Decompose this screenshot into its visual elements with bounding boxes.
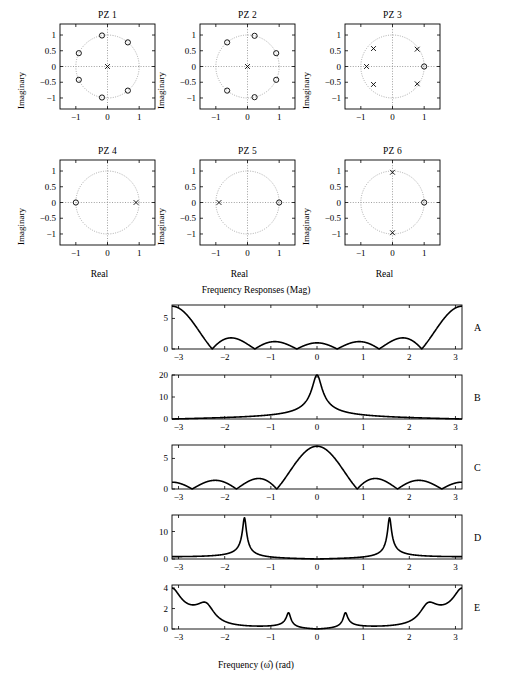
- svg-text:−0.5: −0.5: [40, 77, 57, 87]
- svg-text:1: 1: [361, 492, 366, 502]
- pole-zero-plot-6: PZ 6ImaginaryReal−101−1−0.500.51: [297, 146, 448, 271]
- svg-text:5: 5: [164, 313, 169, 323]
- svg-text:0: 0: [164, 414, 169, 424]
- pole-zero-plot-3: PZ 3Imaginary−101−1−0.500.51: [297, 10, 448, 135]
- svg-text:1: 1: [361, 422, 366, 432]
- svg-text:1: 1: [137, 248, 142, 258]
- svg-text:−3: −3: [174, 422, 184, 432]
- svg-text:2: 2: [164, 604, 169, 614]
- pole-marker: [217, 200, 222, 205]
- svg-text:1: 1: [361, 562, 366, 572]
- svg-text:0: 0: [337, 62, 342, 72]
- svg-text:2: 2: [407, 492, 412, 502]
- pole-zero-plot-2: PZ 2Imaginary−101−1−0.500.51: [152, 10, 303, 135]
- response-curve: [172, 446, 462, 489]
- svg-text:−0.5: −0.5: [180, 213, 197, 223]
- svg-text:0: 0: [390, 112, 395, 122]
- zero-marker: [125, 88, 130, 93]
- svg-text:10: 10: [159, 392, 169, 402]
- svg-text:1: 1: [361, 632, 366, 642]
- response-curve: [172, 518, 462, 559]
- pole-zero-plot-grid: PZ 1Imaginary−101−1−0.500.51PZ 2Imaginar…: [0, 0, 512, 285]
- svg-text:0: 0: [164, 554, 169, 564]
- svg-text:1: 1: [337, 166, 342, 176]
- svg-text:0: 0: [105, 112, 110, 122]
- pole-marker: [245, 64, 250, 69]
- svg-text:0: 0: [164, 624, 169, 634]
- svg-text:1: 1: [422, 248, 427, 258]
- svg-text:−0.5: −0.5: [325, 213, 342, 223]
- svg-text:3: 3: [453, 352, 458, 362]
- svg-text:0: 0: [164, 344, 169, 354]
- pz-plot-title: PZ 5: [152, 146, 303, 156]
- panel-letter-label: A: [474, 322, 482, 333]
- svg-text:0: 0: [337, 198, 342, 208]
- svg-text:0: 0: [315, 492, 320, 502]
- svg-text:1: 1: [337, 30, 342, 40]
- svg-text:0: 0: [192, 62, 197, 72]
- svg-text:1: 1: [192, 166, 197, 176]
- zero-marker: [274, 51, 279, 56]
- pz-plot-title: PZ 6: [297, 146, 448, 156]
- svg-text:2: 2: [407, 422, 412, 432]
- svg-text:−0.5: −0.5: [40, 213, 57, 223]
- svg-text:0.5: 0.5: [330, 182, 342, 192]
- svg-text:0: 0: [52, 198, 57, 208]
- svg-text:1: 1: [137, 112, 142, 122]
- pz-plot-title: PZ 4: [12, 146, 163, 156]
- svg-text:1: 1: [422, 112, 427, 122]
- pole-marker: [415, 47, 420, 52]
- svg-text:0: 0: [164, 484, 169, 494]
- panel-letter-label: D: [474, 532, 481, 543]
- svg-text:−1: −1: [186, 93, 196, 103]
- svg-text:0.5: 0.5: [45, 182, 57, 192]
- svg-text:−3: −3: [174, 492, 184, 502]
- pole-marker: [134, 200, 139, 205]
- pole-marker: [105, 64, 110, 69]
- frequency-response-panel-B: −3−2−1012301020B: [0, 373, 512, 441]
- svg-text:−3: −3: [174, 352, 184, 362]
- pole-zero-plot-5: PZ 5ImaginaryReal−101−1−0.500.51: [152, 146, 303, 271]
- frequency-response-section: Frequency Responses (Mag) Frequency (ω̂)…: [0, 285, 512, 694]
- svg-text:1: 1: [52, 30, 57, 40]
- svg-text:1: 1: [361, 352, 366, 362]
- svg-text:0: 0: [105, 248, 110, 258]
- zero-marker: [225, 88, 230, 93]
- svg-text:0.5: 0.5: [185, 182, 197, 192]
- panel-letter-label: C: [474, 462, 481, 473]
- zero-marker: [274, 77, 279, 82]
- pole-marker: [371, 46, 376, 51]
- svg-text:−2: −2: [220, 492, 230, 502]
- zero-marker: [76, 77, 81, 82]
- svg-text:−1: −1: [46, 93, 56, 103]
- svg-text:2: 2: [407, 632, 412, 642]
- svg-text:−1: −1: [71, 248, 81, 258]
- svg-text:0: 0: [315, 632, 320, 642]
- svg-text:2: 2: [407, 352, 412, 362]
- svg-text:−1: −1: [266, 562, 276, 572]
- pz-plot-title: PZ 3: [297, 10, 448, 20]
- svg-text:0: 0: [315, 562, 320, 572]
- frequency-response-panel-E: −3−2−10123024E: [0, 583, 512, 651]
- svg-text:3: 3: [453, 492, 458, 502]
- svg-text:3: 3: [453, 562, 458, 572]
- svg-text:−3: −3: [174, 632, 184, 642]
- svg-text:−2: −2: [220, 632, 230, 642]
- svg-text:10: 10: [159, 527, 169, 537]
- svg-text:3: 3: [453, 422, 458, 432]
- pole-marker: [371, 82, 376, 87]
- pole-marker: [415, 81, 420, 86]
- svg-text:20: 20: [159, 370, 169, 380]
- svg-text:0: 0: [315, 352, 320, 362]
- svg-text:0: 0: [245, 112, 250, 122]
- response-curve: [172, 588, 462, 629]
- svg-text:0: 0: [52, 62, 57, 72]
- svg-text:−1: −1: [266, 492, 276, 502]
- svg-text:0: 0: [315, 422, 320, 432]
- svg-text:−1: −1: [71, 112, 81, 122]
- zero-marker: [76, 51, 81, 56]
- pz-plot-title: PZ 2: [152, 10, 303, 20]
- svg-text:−1: −1: [186, 229, 196, 239]
- svg-text:0: 0: [192, 198, 197, 208]
- svg-text:−1: −1: [266, 352, 276, 362]
